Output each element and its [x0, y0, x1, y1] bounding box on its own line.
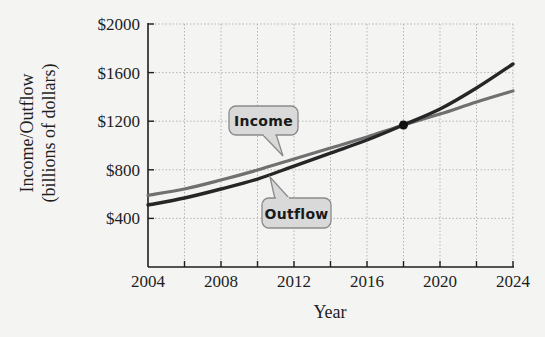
y-axis-title-line2: (billions of dollars): [39, 64, 60, 203]
y-axis-title: Income/Outflow (billions of dollars): [17, 64, 60, 203]
income-callout-tail: [262, 134, 283, 156]
x-axis-title: Year: [313, 302, 346, 322]
income-callout: Income: [229, 106, 298, 156]
x-tick-label: 2020: [423, 272, 457, 291]
income-callout-tail-fill: [263, 133, 276, 136]
intersection-point: [399, 120, 408, 129]
x-tick-label: 2008: [204, 272, 238, 291]
data-series: [148, 64, 513, 205]
income-callout-label: Income: [234, 113, 293, 129]
outflow-callout: Outflow: [262, 177, 331, 228]
y-axis-title-line1: Income/Outflow: [17, 74, 37, 193]
y-tick-label: $1200: [98, 112, 141, 131]
y-tick-label: $2000: [98, 15, 141, 34]
chart: 200420082012201620202024$400$800$1200$16…: [0, 0, 545, 337]
y-tick-label: $400: [106, 209, 140, 228]
grid-lines: [148, 24, 513, 267]
y-tick-label: $800: [106, 161, 140, 180]
intersection-dot: [399, 120, 408, 129]
x-tick-label: 2024: [496, 272, 531, 291]
x-tick-label: 2004: [131, 272, 166, 291]
x-tick-label: 2012: [277, 272, 311, 291]
x-tick-label: 2016: [350, 272, 384, 291]
outflow-callout-tail: [270, 177, 290, 199]
y-tick-label: $1600: [98, 64, 141, 83]
outflow-callout-label: Outflow: [264, 206, 328, 222]
outflow-callout-tail-fill: [276, 197, 289, 200]
line-chart-svg: 200420082012201620202024$400$800$1200$16…: [0, 0, 545, 337]
